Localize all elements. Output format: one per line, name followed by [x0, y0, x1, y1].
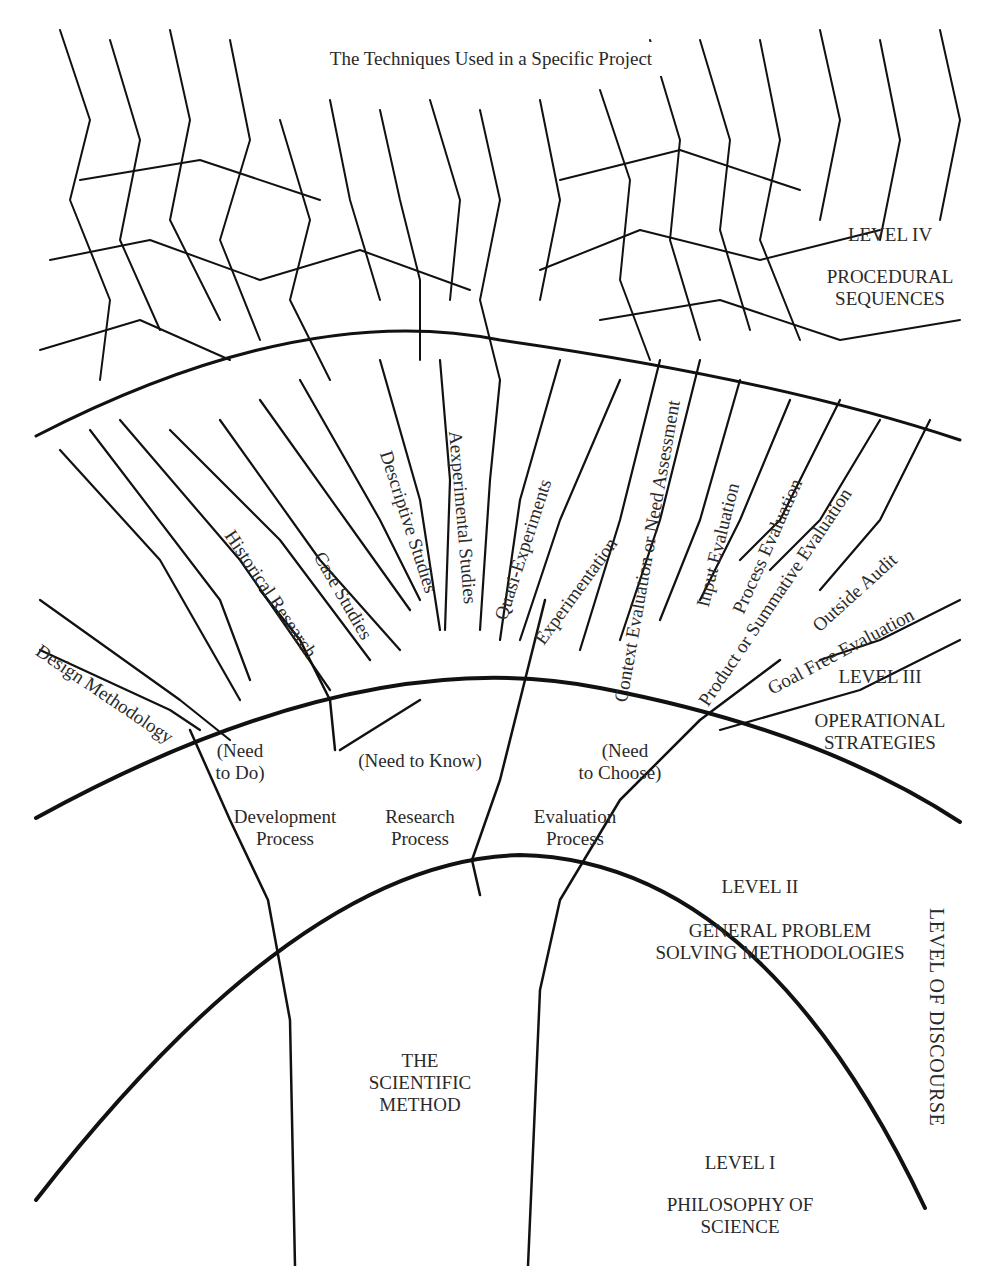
level-4-name-line-1: PROCEDURAL — [800, 266, 980, 288]
research-process-line-2: Process — [370, 828, 470, 850]
level-boundary-arc-3 — [36, 331, 960, 440]
level-4-label: LEVEL IV — [800, 224, 980, 246]
need-to-choose-line-2: to Choose) — [560, 762, 680, 784]
development-process-line-1: Development — [220, 806, 350, 828]
level-1-name-line-2: SCIENCE — [640, 1216, 840, 1238]
level-3-name-line-1: OPERATIONAL — [790, 710, 970, 732]
level-2-label: LEVEL II — [680, 876, 840, 898]
level-3-name-line-2: STRATEGIES — [790, 732, 970, 754]
core-line-1: THE — [340, 1050, 500, 1072]
evaluation-process-line-1: Evaluation — [520, 806, 630, 828]
evaluation-process-line-2: Process — [520, 828, 630, 850]
need-to-know: (Need to Know) — [340, 750, 500, 772]
level-of-discourse-axis-label: LEVEL OF DISCOURSE — [926, 908, 948, 1126]
need-to-do-line-2: to Do) — [200, 762, 280, 784]
development-process-line-2: Process — [220, 828, 350, 850]
diagram-title: The Techniques Used in a Specific Projec… — [303, 42, 679, 76]
level-2-name-line-1: GENERAL PROBLEM — [650, 920, 910, 942]
need-to-do-line-1: (Need — [200, 740, 280, 762]
level-1-name-line-1: PHILOSOPHY OF — [640, 1194, 840, 1216]
level-4-name-line-2: SEQUENCES — [800, 288, 980, 310]
level-2-name-line-2: SOLVING METHODOLOGIES — [650, 942, 910, 964]
need-to-choose-line-1: (Need — [570, 740, 680, 762]
core-line-2: SCIENTIFIC — [340, 1072, 500, 1094]
level-1-label: LEVEL I — [670, 1152, 810, 1174]
core-line-3: METHOD — [340, 1094, 500, 1116]
research-process-line-1: Research — [370, 806, 470, 828]
